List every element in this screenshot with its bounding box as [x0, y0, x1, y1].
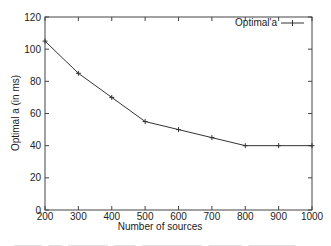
y-tick-label: 20 [30, 172, 42, 183]
legend-label: Optimal'a [235, 17, 277, 28]
x-axis-title: Number of sources [118, 221, 202, 232]
data-series [43, 39, 315, 149]
x-tick-label: 700 [204, 211, 221, 222]
y-tick-label: 80 [30, 76, 42, 87]
x-axis-ticks: 2003004005006007008009001000 [37, 17, 324, 222]
x-tick-label: 900 [270, 211, 287, 222]
plot-frame [45, 17, 312, 210]
x-tick-label: 1000 [301, 211, 324, 222]
figure-caption-faded [14, 236, 314, 242]
x-tick-label: 200 [37, 211, 54, 222]
y-tick-label: 60 [30, 108, 42, 119]
y-tick-label: 120 [24, 12, 41, 23]
y-axis-title: Optimal a (in ms) [10, 75, 21, 151]
y-axis-ticks: 020406080100120 [24, 12, 312, 216]
y-tick-label: 40 [30, 140, 42, 151]
legend: Optimal'a [235, 17, 304, 28]
x-tick-label: 300 [70, 211, 87, 222]
y-tick-label: 100 [24, 44, 41, 55]
line-chart: 020406080100120 200300400500600700800900… [0, 0, 331, 246]
x-tick-label: 800 [237, 211, 254, 222]
